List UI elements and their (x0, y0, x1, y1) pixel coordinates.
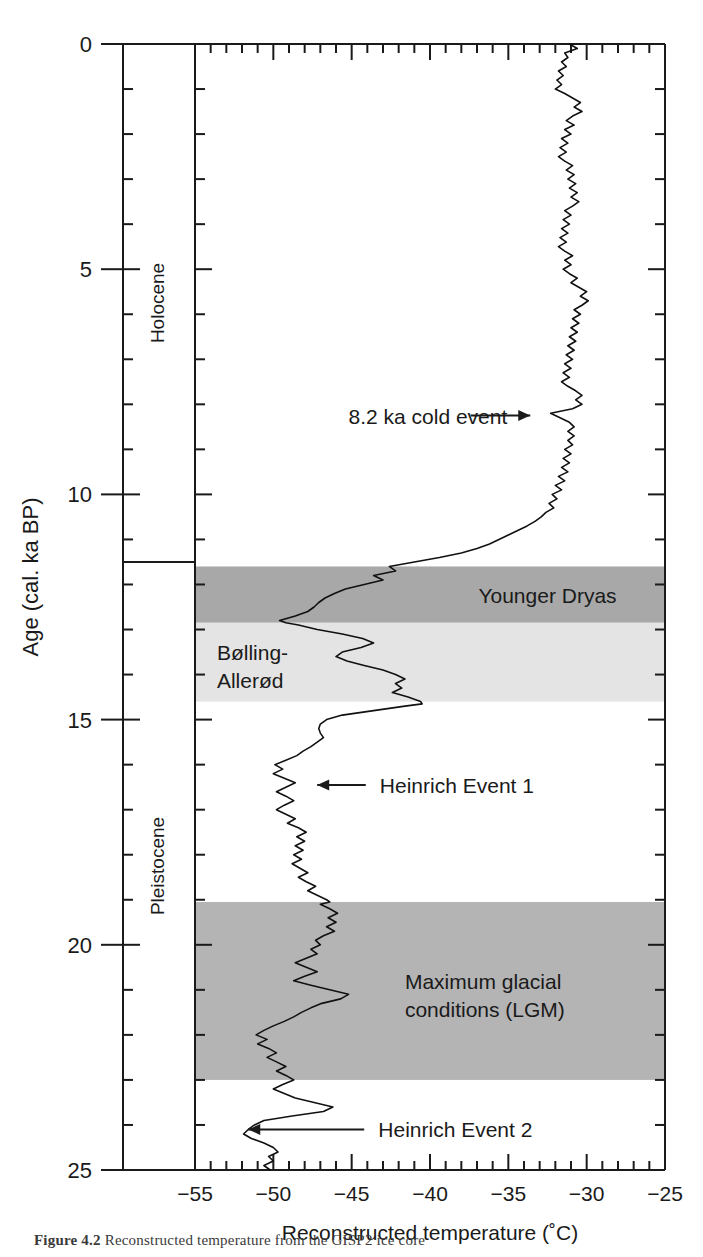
band-label-1: Bølling- (217, 641, 288, 664)
x-tick-label: −45 (334, 1182, 370, 1205)
annotation-heinrich-2-text: Heinrich Event 2 (378, 1118, 532, 1141)
figure-caption-label: Figure 4.2 (34, 1232, 101, 1248)
band-label-2: Maximum glacial (405, 970, 561, 993)
annotation-8-2-ka-arrow-head (518, 410, 530, 421)
x-tick-label: −30 (569, 1182, 605, 1205)
band-label-0: Younger Dryas (478, 584, 616, 607)
band-label-1-line2: Allerød (217, 669, 284, 692)
temperature-reconstruction-chart: HolocenePleistocene−55−50−45−40−35−30−25… (0, 0, 703, 1257)
y-axis-title: Age (cal. ka BP) (18, 498, 43, 657)
annotation-heinrich-1-text: Heinrich Event 1 (380, 774, 534, 797)
paleoclimate-figure: HolocenePleistocene−55−50−45−40−35−30−25… (0, 0, 703, 1257)
y-tick-label: 10 (68, 482, 92, 507)
y-tick-label: 25 (68, 1158, 92, 1183)
y-tick-label: 15 (68, 708, 92, 733)
x-tick-label: −40 (412, 1182, 448, 1205)
epoch-label-holocene: Holocene (147, 263, 168, 343)
x-tick-label: −55 (177, 1182, 213, 1205)
figure-caption-text: Figure 4.2 Reconstructed temperature fro… (0, 1232, 703, 1249)
y-tick-label: 0 (80, 32, 92, 57)
annotation-heinrich-1-arrow-head (317, 779, 329, 790)
x-tick-label: −50 (256, 1182, 292, 1205)
figure-caption-body: Reconstructed temperature from the GISP2… (105, 1232, 426, 1248)
y-tick-label: 5 (80, 257, 92, 282)
figure-caption: Figure 4.2 Reconstructed temperature fro… (0, 1232, 703, 1257)
x-tick-label: −35 (491, 1182, 527, 1205)
band-label-2-line2: conditions (LGM) (405, 998, 565, 1021)
y-tick-label: 20 (68, 933, 92, 958)
epoch-label-pleistocene: Pleistocene (147, 817, 168, 915)
x-tick-label: −25 (647, 1182, 683, 1205)
